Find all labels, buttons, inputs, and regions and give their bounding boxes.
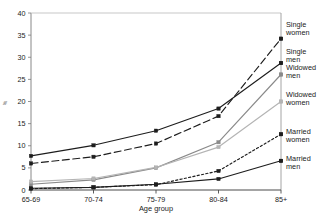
legend-label: women bbox=[285, 28, 310, 37]
x-tick-label: 70-74 bbox=[84, 195, 102, 204]
data-point bbox=[217, 114, 220, 117]
data-point bbox=[217, 169, 220, 172]
x-tick-label: 75-79 bbox=[147, 195, 165, 204]
legend-marker bbox=[279, 37, 283, 41]
x-axis-title: Age group bbox=[139, 204, 173, 213]
legend-marker bbox=[279, 61, 283, 65]
y-tick-label: 5 bbox=[22, 163, 26, 172]
legend-marker bbox=[279, 73, 283, 77]
y-tick-label: 35 bbox=[18, 31, 26, 40]
legend-label: men bbox=[286, 71, 300, 80]
legend: SinglewomenSinglemenWidowedmenWidowedwom… bbox=[279, 20, 316, 171]
y-tick-label: 40 bbox=[18, 9, 26, 18]
data-point bbox=[29, 154, 32, 157]
axis-lines bbox=[31, 13, 281, 190]
data-point bbox=[217, 141, 220, 144]
x-tick-label: 85+ bbox=[275, 195, 287, 204]
x-tick-label: 65-69 bbox=[22, 195, 40, 204]
y-tick-label: 20 bbox=[18, 97, 26, 106]
data-point bbox=[217, 177, 220, 180]
y-axis-tick-labels: 0510152025303540 bbox=[18, 9, 26, 195]
y-axis-title: % bbox=[2, 100, 8, 105]
legend-marker bbox=[279, 100, 283, 104]
data-point bbox=[29, 162, 32, 165]
x-axis-tick-labels: 65-6970-7475-7980-8485+ bbox=[22, 195, 287, 204]
data-point bbox=[92, 155, 95, 158]
data-point bbox=[92, 186, 95, 189]
legend-label: men bbox=[286, 162, 300, 171]
y-tick-label: 0 bbox=[22, 186, 26, 195]
legend-marker bbox=[279, 132, 283, 136]
data-point bbox=[29, 187, 32, 190]
y-tick-label: 25 bbox=[18, 75, 26, 84]
data-point bbox=[217, 145, 220, 148]
data-point bbox=[154, 129, 157, 132]
chart-container: 0510152025303540 65-6970-7475-7980-8485+… bbox=[0, 0, 325, 217]
y-tick-label: 15 bbox=[18, 119, 26, 128]
data-point bbox=[154, 183, 157, 186]
data-point bbox=[154, 166, 157, 169]
legend-label: women bbox=[285, 98, 310, 107]
legend-label: women bbox=[285, 135, 310, 144]
data-point bbox=[92, 144, 95, 147]
x-tick-label: 80-84 bbox=[209, 195, 227, 204]
x-axis-ticks bbox=[31, 190, 281, 194]
data-point bbox=[29, 180, 32, 183]
data-point bbox=[92, 177, 95, 180]
line-chart: 0510152025303540 65-6970-7475-7980-8485+… bbox=[0, 0, 325, 217]
data-point bbox=[154, 142, 157, 145]
y-tick-label: 30 bbox=[18, 53, 26, 62]
legend-marker bbox=[279, 159, 283, 163]
data-point bbox=[217, 107, 220, 110]
y-tick-label: 10 bbox=[18, 141, 26, 150]
